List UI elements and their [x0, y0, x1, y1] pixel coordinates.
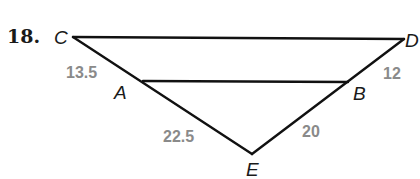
- length-label-ca: 13.5: [66, 64, 97, 81]
- segment-cd: [73, 37, 404, 39]
- point-label-c: C: [54, 27, 68, 48]
- segment-ab: [143, 81, 348, 82]
- length-label-ae: 22.5: [163, 128, 194, 145]
- problem-number: 18.: [7, 25, 40, 47]
- point-label-d: D: [405, 30, 419, 51]
- length-label-be: 20: [302, 123, 320, 140]
- segment-de: [252, 39, 404, 154]
- point-label-b: B: [353, 83, 366, 104]
- triangle-figure: 18. C D A B E 13.5 12 22.5 20: [0, 0, 420, 179]
- point-label-e: E: [246, 159, 259, 179]
- length-label-db: 12: [383, 65, 401, 82]
- point-label-a: A: [113, 82, 127, 103]
